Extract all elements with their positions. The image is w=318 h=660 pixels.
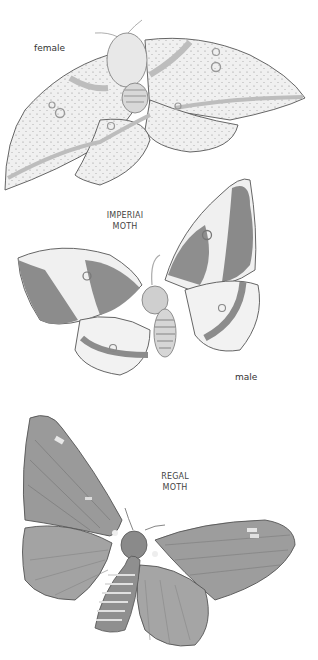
male-label: male bbox=[235, 372, 257, 383]
female-label: female bbox=[34, 43, 65, 54]
regal-moth-illustration bbox=[0, 400, 318, 660]
male-imperial-moth-illustration bbox=[0, 170, 318, 380]
female-imperial-moth-illustration bbox=[0, 0, 318, 195]
